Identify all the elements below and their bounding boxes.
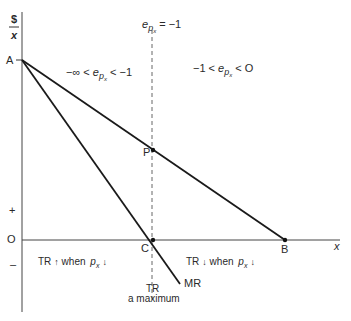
inelastic-tr-annotation: TR↓ when px↓ xyxy=(186,256,255,269)
point-A-label: A xyxy=(6,54,14,66)
point-C-label: C xyxy=(141,242,149,254)
point-B-label: B xyxy=(281,243,288,255)
inelastic-region-label: −1 < epx < O xyxy=(193,62,254,78)
point-P-label: P xyxy=(143,146,150,158)
y-axis-label-dollar: $ xyxy=(11,13,17,25)
mr-label: MR xyxy=(184,277,201,289)
elastic-tr-annotation: TR↑ when px↓ xyxy=(38,256,107,269)
marginal-revenue-curve xyxy=(22,60,180,284)
point-P xyxy=(151,148,155,152)
zero-label: O xyxy=(7,233,16,245)
unit-elasticity-label: epx = −1 xyxy=(142,18,181,34)
elastic-region-label: −∞ < epx < −1 xyxy=(66,66,132,82)
point-B xyxy=(283,238,287,242)
y-axis-label-x: x xyxy=(10,29,18,41)
point-C xyxy=(151,238,155,242)
tr-maximum-line2: a maximum xyxy=(128,293,180,304)
x-axis-label: x xyxy=(333,240,340,252)
plus-label: + xyxy=(9,204,15,216)
minus-label: – xyxy=(10,258,17,270)
elasticity-diagram: $ x + O – x A P C B MR epx = −1 −∞ < epx… xyxy=(0,0,351,321)
